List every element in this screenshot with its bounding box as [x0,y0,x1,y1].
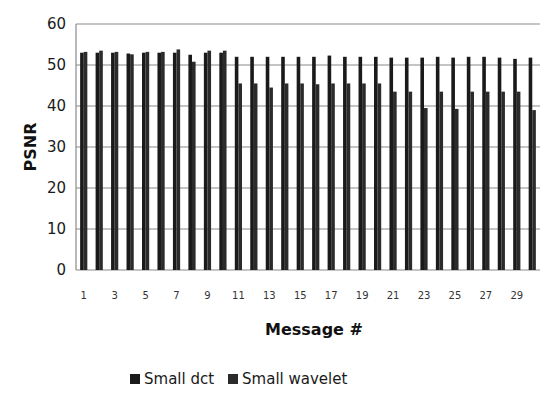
bar-small-dct [343,57,347,270]
bar-small-dct [111,53,115,270]
bar-small-wavelet [84,52,88,270]
bar-small-wavelet [254,83,258,270]
bar-small-wavelet [146,52,150,270]
bar-small-wavelet [207,51,211,270]
bar-small-dct [188,55,192,270]
bar-small-dct [96,53,100,270]
bar-small-dct [513,59,517,270]
bar-small-wavelet [362,83,366,270]
bar-small-dct [389,58,393,270]
x-tick-label: 7 [173,290,179,301]
bar-small-wavelet [347,83,351,270]
bar-small-dct [405,58,409,270]
y-tick-label: 40 [47,97,66,115]
x-tick-label: 27 [479,290,492,301]
legend-item-small-dct: Small dct [130,370,214,388]
bar-small-dct [219,53,223,270]
bar-small-dct [312,57,316,270]
bar-small-dct [281,57,285,270]
x-tick-label: 17 [325,290,338,301]
bar-small-wavelet [486,92,490,270]
bar-small-wavelet [532,110,536,270]
bar-small-dct [420,58,424,270]
x-tick-label: 3 [111,290,117,301]
legend-swatch-small-wavelet [228,374,238,384]
legend-swatch-small-dct [130,374,140,384]
legend: Small dct Small wavelet [130,370,347,388]
bar-small-dct [498,58,502,270]
bar-small-wavelet [285,83,289,270]
bar-small-dct [297,57,301,270]
bar-small-wavelet [393,92,397,270]
bar-small-dct [157,53,161,270]
bar-small-dct [436,57,440,270]
bar-small-wavelet [501,92,505,270]
bar-small-dct [529,58,533,270]
y-axis-ticks: 0102030405060 [47,15,66,279]
y-tick-label: 30 [47,138,66,156]
x-tick-label: 11 [232,290,245,301]
bar-small-wavelet [192,62,196,270]
bars [80,49,536,270]
legend-label-small-wavelet: Small wavelet [242,370,347,388]
bar-small-wavelet [223,51,227,270]
psnr-bar-chart: 0102030405060 1357911131517192123252729 … [0,0,553,409]
x-tick-label: 19 [356,290,369,301]
y-tick-label: 60 [47,15,66,33]
bar-small-wavelet [99,51,103,270]
bar-small-wavelet [238,83,242,270]
x-axis-title: Message # [265,320,363,339]
bar-small-dct [467,57,471,270]
bar-small-wavelet [161,52,165,270]
x-tick-label: 13 [263,290,276,301]
bar-small-wavelet [409,92,413,270]
bar-small-wavelet [455,109,459,270]
y-tick-label: 10 [47,220,66,238]
bar-small-wavelet [130,54,134,270]
bar-small-dct [127,54,131,270]
bar-small-dct [250,57,254,270]
bar-small-dct [204,53,208,270]
bar-small-wavelet [269,88,273,270]
x-tick-label: 29 [510,290,523,301]
bar-small-wavelet [424,108,428,270]
x-tick-label: 1 [81,290,87,301]
bar-small-dct [235,57,239,270]
bar-small-dct [142,53,146,270]
legend-label-small-dct: Small dct [144,370,214,388]
bar-small-wavelet [115,52,119,270]
bar-small-wavelet [470,92,474,270]
bar-small-dct [482,57,486,270]
x-tick-label: 15 [294,290,307,301]
bar-small-dct [374,57,378,270]
bar-small-dct [266,57,270,270]
bar-small-dct [328,56,332,270]
x-tick-label: 21 [387,290,400,301]
bar-small-dct [80,53,84,270]
bar-small-wavelet [378,83,382,270]
bar-small-dct [359,57,363,270]
bar-small-wavelet [331,83,335,270]
bar-small-dct [173,53,177,270]
x-tick-label: 9 [204,290,210,301]
bar-small-wavelet [316,84,320,270]
y-tick-label: 50 [47,56,66,74]
y-tick-label: 20 [47,179,66,197]
x-tick-label: 25 [449,290,462,301]
bar-small-dct [451,58,455,270]
bar-small-wavelet [177,49,181,270]
bar-small-wavelet [439,92,443,270]
bar-small-wavelet [300,83,304,270]
legend-item-small-wavelet: Small wavelet [228,370,347,388]
y-tick-label: 0 [56,261,66,279]
y-axis-title: PSNR [21,123,40,172]
x-tick-label: 5 [142,290,148,301]
x-axis-ticks: 1357911131517192123252729 [81,290,524,301]
bar-small-wavelet [517,92,521,270]
x-tick-label: 23 [418,290,431,301]
